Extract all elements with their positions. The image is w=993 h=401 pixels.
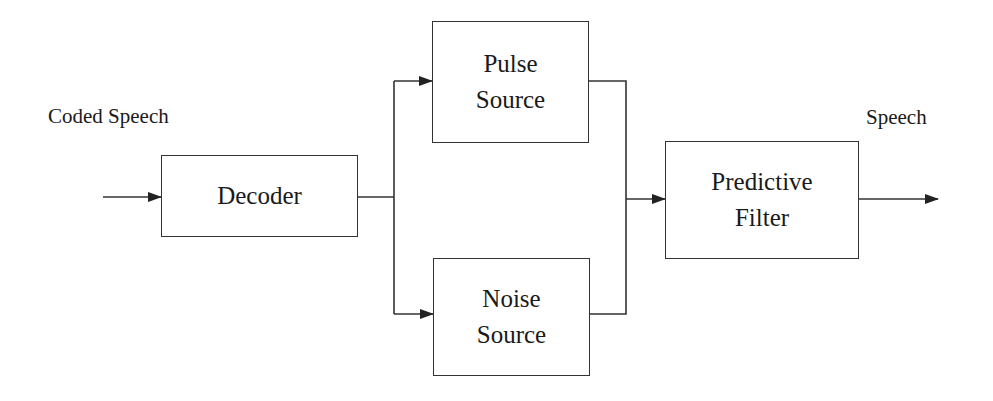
pulse-source-block: Pulse Source — [432, 21, 589, 143]
input-label: Coded Speech — [48, 104, 169, 129]
predictive-filter-block: Predictive Filter — [665, 141, 859, 259]
decoder-label: Decoder — [217, 178, 302, 214]
decoder-block: Decoder — [161, 155, 358, 237]
output-label: Speech — [866, 105, 927, 130]
predictive-filter-label-line2: Filter — [735, 200, 789, 236]
noise-source-label-line2: Source — [477, 317, 546, 353]
pulse-output-line — [588, 81, 626, 199]
predictive-filter-label-line1: Predictive — [711, 164, 812, 200]
pulse-source-label-line1: Pulse — [483, 46, 537, 82]
pulse-source-label-line2: Source — [476, 82, 545, 118]
noise-source-block: Noise Source — [433, 258, 590, 376]
noise-source-label-line1: Noise — [482, 281, 540, 317]
noise-output-line — [589, 199, 626, 314]
